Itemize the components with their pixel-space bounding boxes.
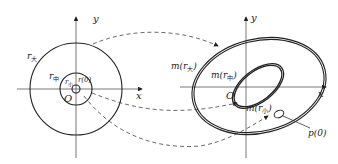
label-r-mid: r中 [49,71,59,83]
arrow-mid [92,93,237,110]
ellipse-m-r-small [273,109,285,120]
right-origin-label: O [226,90,234,101]
label-m-r-big: m(r大) [171,61,197,73]
label-r0: r(0) [78,76,92,84]
right-x-label: x [318,88,324,99]
label-p0: p(0) [308,128,327,138]
right-diagram: y x O m(r大) m(r中) m(r小) p(0) [171,12,336,158]
label-r-big: r大 [27,51,37,63]
label-r-small: r小 [65,78,73,88]
arrow-small [84,96,268,147]
right-y-label: y [250,12,257,23]
left-x-label: x [136,90,142,101]
left-y-label: y [92,13,99,24]
arrow-big [93,32,218,46]
mapping-diagram: y x O r大 r中 r小 r(0) y x O m(r大) m(r中) m(… [0,0,338,164]
label-m-r-small: m(r小) [246,103,272,115]
label-m-r-mid: m(r中) [211,70,237,82]
left-origin-label: O [64,93,72,104]
